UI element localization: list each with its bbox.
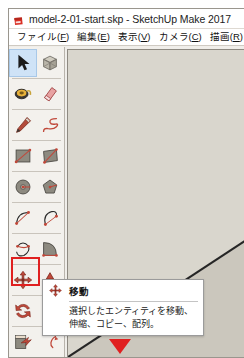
freehand-squiggle-icon — [39, 114, 61, 136]
circle-tool[interactable] — [9, 173, 37, 201]
arc-tool[interactable] — [9, 204, 37, 232]
menu-view-tail: ) — [147, 31, 150, 42]
two-point-arc-tool[interactable] — [37, 204, 65, 232]
menu-camera-tail: ) — [199, 31, 202, 42]
menu-edit-label: 編集( — [77, 31, 100, 42]
menu-file-tail: ) — [66, 31, 69, 42]
eraser-tool[interactable] — [37, 80, 65, 108]
menu-bar: ファイル(F) 編集(E) 表示(V) カメラ(C) 描画(R) — [9, 29, 244, 46]
title-bar: model-2-01-start.skp - SketchUp Make 201… — [9, 9, 244, 29]
tool-separator — [12, 78, 61, 79]
menu-file-label: ファイル( — [17, 31, 60, 42]
tooltip-divider — [69, 301, 198, 302]
tool-row — [9, 111, 64, 139]
red-down-triangle-icon — [109, 339, 131, 354]
eraser-icon — [39, 83, 61, 105]
paint-bucket-icon — [12, 83, 34, 105]
follow-me-tool[interactable] — [9, 328, 37, 356]
tooltip-title: 移動 — [69, 284, 89, 298]
menu-file[interactable]: ファイル(F) — [13, 32, 73, 42]
tool-row — [9, 49, 64, 77]
follow-me-icon — [12, 331, 34, 353]
rotated-rectangle-icon — [39, 145, 61, 167]
circle-icon — [12, 176, 34, 198]
menu-camera-mnemonic: C — [192, 31, 199, 42]
tool-separator — [12, 264, 61, 265]
window-title: model-2-01-start.skp - SketchUp Make 201… — [29, 13, 231, 25]
tooltip-description: 選択したエンティティを移動、伸縮、コピー、配列。 — [48, 305, 198, 331]
cursor-arrow-icon — [12, 52, 34, 74]
tool-separator — [12, 140, 61, 141]
tool-separator — [12, 233, 61, 234]
three-point-arc-icon — [12, 238, 34, 260]
tooltip-header: 移動 — [48, 283, 198, 300]
select-tool[interactable] — [9, 49, 37, 77]
tool-separator — [12, 202, 61, 203]
move-four-arrows-icon — [12, 269, 34, 291]
menu-edit-tail: ) — [107, 31, 110, 42]
rotate-arrows-icon — [12, 300, 34, 322]
tool-row — [9, 235, 64, 263]
menu-draw-label: 描画( — [210, 31, 233, 42]
component-box-icon — [39, 52, 61, 74]
tool-separator — [12, 171, 61, 172]
rectangle-icon — [12, 145, 34, 167]
move-tool[interactable] — [9, 266, 37, 294]
polygon-tool[interactable] — [37, 173, 65, 201]
pie-tool[interactable] — [37, 235, 65, 263]
menu-draw-tail: ) — [240, 31, 243, 42]
move-four-arrows-icon — [48, 283, 63, 298]
rotated-rectangle-tool[interactable] — [37, 142, 65, 170]
polygon-icon — [39, 176, 61, 198]
tool-separator — [12, 109, 61, 110]
tool-row — [9, 80, 64, 108]
menu-draw-mnemonic: R — [233, 31, 240, 42]
line-tool[interactable] — [9, 111, 37, 139]
menu-edit[interactable]: 編集(E) — [73, 32, 114, 42]
make-component-tool[interactable] — [37, 49, 64, 77]
three-point-arc-tool[interactable] — [9, 235, 37, 263]
tool-row — [9, 142, 64, 170]
rotate-tool[interactable] — [9, 297, 37, 325]
pie-icon — [39, 238, 61, 260]
sketchup-logo-icon — [13, 13, 24, 24]
tool-row — [9, 173, 64, 201]
pencil-icon — [12, 114, 34, 136]
rectangle-tool[interactable] — [9, 142, 37, 170]
arc-icon — [12, 207, 34, 229]
freehand-tool[interactable] — [37, 111, 65, 139]
two-point-arc-icon — [39, 207, 61, 229]
menu-draw[interactable]: 描画(R) — [206, 32, 244, 42]
menu-camera-label: カメラ( — [159, 31, 192, 42]
menu-camera[interactable]: カメラ(C) — [155, 32, 206, 42]
tool-row — [9, 204, 64, 232]
tool-tooltip: 移動 選択したエンティティを移動、伸縮、コピー、配列。 — [42, 279, 204, 336]
menu-view-label: 表示( — [118, 31, 141, 42]
paint-bucket-tool[interactable] — [9, 80, 37, 108]
menu-view[interactable]: 表示(V) — [114, 32, 155, 42]
